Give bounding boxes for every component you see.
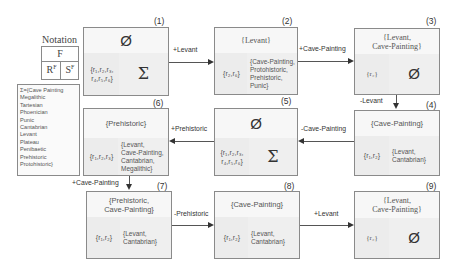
legend-line: Levant [20, 131, 77, 138]
sigma-legend: Σ={Cave Painting Megalithic Tartesian Ph… [17, 84, 80, 176]
legend-line: Plateau [20, 139, 77, 146]
items-label: {Levant, Cantabrian} [251, 230, 285, 246]
box-header: Ø [215, 109, 297, 139]
box-number: (7) [157, 181, 167, 191]
box-number: (6) [153, 98, 163, 108]
box-items: {Levant, Cantabrian} [120, 217, 171, 258]
rows-label: {r₁,r₂,r₃, r₄,r₅,r₆} [220, 148, 243, 166]
arrow-left-icon [169, 138, 175, 144]
transition-label: +Prehistoric [171, 125, 207, 132]
items-label: {Levant, Cave-Painting, Cantabrian, Mega… [121, 141, 164, 173]
arrow-line [300, 225, 349, 226]
box-header: {Cave-Painting} [355, 111, 439, 137]
notation-grid: F RF SF [41, 46, 79, 80]
box-rows: {r₂} [355, 218, 390, 258]
state-box-2: {Levant} {r₂,r₆} {Cave-Painting, Protohi… [214, 27, 298, 95]
box-header: {Levant, Cave-Painting} [355, 29, 439, 55]
box-rows: {r₁,r₂,r₃, r₄,r₅,r₆} [84, 53, 121, 95]
box-items: Σ [119, 53, 168, 95]
transition-label: +Levant [173, 46, 197, 53]
sigma-icon: Σ [267, 153, 278, 161]
legend-line: Tartesian [20, 102, 77, 109]
state-box-6: {Prehistoric} {r₁,r₂,r₃} {Levant, Cave-P… [83, 108, 169, 176]
items-label: {Levant, Cantabrian} [123, 230, 157, 246]
arrow-right-icon [348, 58, 354, 64]
legend-line: Prehistoric [20, 154, 77, 161]
arrow-line [175, 141, 214, 142]
legend-line: Cantabrian [20, 124, 77, 131]
box-header: {Prehistoric} [84, 109, 168, 139]
box-rows: {r₁,r₂} [215, 217, 250, 258]
box-items: {Levant, Cantabrian} [389, 136, 439, 175]
notation-title: Notation [42, 34, 77, 45]
state-box-9: {Levant, Cave-Painting} {r₂} Ø [354, 191, 440, 259]
box-items: Ø [389, 218, 439, 258]
arrow-right-icon [208, 59, 214, 65]
rows-label: {r₁,r₂,r₃, r₄,r₅,r₆} [90, 65, 113, 83]
legend-line: Punic [20, 117, 77, 124]
box-header: {Prehistoric, Cave-Painting} [87, 192, 171, 218]
rows-label: {r₂,r₆} [223, 69, 240, 78]
rows-label: {r₁,r₂,r₃} [90, 152, 114, 161]
box-number: (5) [281, 96, 291, 106]
box-rows: {r₂,r₆} [215, 53, 249, 94]
box-number: (4) [426, 100, 436, 110]
transition-label: +Cave-Painting [299, 45, 346, 52]
rows-label: {r₁,r₂} [364, 151, 380, 160]
transition-label: -Cave-Painting [301, 125, 346, 132]
state-box-1: Ø {r₁,r₂,r₃, r₄,r₅,r₆} Σ [83, 27, 169, 96]
empty-set-icon: Ø [120, 36, 132, 45]
legend-line: Megalithic [20, 94, 77, 101]
empty-set-icon: Ø [408, 234, 420, 242]
empty-set-icon: Ø [250, 119, 262, 128]
box-items: {Cave-Painting, Protohistoric, Prehistor… [247, 53, 297, 94]
box-rows: {r₁,r₂,r₃, r₄,r₅,r₆} [215, 138, 250, 175]
box-rows: {r₁,r₂,r₃} [84, 138, 120, 175]
legend-line: Σ={Cave Painting [20, 87, 77, 94]
transition-label: +Levant [314, 210, 338, 217]
transition-label: -Levant [360, 97, 383, 104]
arrow-line [172, 225, 209, 226]
empty-set-icon: Ø [408, 70, 420, 78]
notation-rf: RF [43, 64, 60, 75]
box-header: {Levant} [215, 28, 297, 54]
state-box-7: {Prehistoric, Cave-Painting} {r₁,r₂} {Le… [86, 191, 172, 259]
box-header: Ø [84, 28, 168, 54]
rows-label: {r₁,r₂} [224, 233, 240, 242]
sigma-icon: Σ [138, 70, 149, 78]
legend-line: Penibaetic [20, 146, 77, 153]
arrow-down-icon [126, 184, 132, 190]
state-box-3: {Levant, Cave-Painting} {r₂} Ø [354, 28, 440, 95]
arrow-line [304, 141, 354, 142]
box-items: {Levant, Cave-Painting, Cantabrian, Mega… [118, 138, 168, 175]
state-box-8: {Cave-Painting} {r₁,r₂} {Levant, Cantabr… [214, 191, 300, 259]
box-rows: {r₁,r₂} [355, 136, 390, 175]
rows-label: {r₂} [366, 234, 378, 243]
arrow-down-icon [393, 103, 399, 109]
transition-label: -Prehistoric [174, 210, 208, 217]
box-rows: {r₂} [355, 54, 390, 94]
notation-f: F [42, 47, 78, 62]
box-header: {Cave-Painting} [215, 192, 299, 218]
box-number: (1) [154, 16, 164, 26]
box-header: {Levant, Cave-Painting} [355, 192, 439, 219]
arrow-right-icon [348, 222, 354, 228]
legend-line: Phoenician [20, 109, 77, 116]
box-number: (8) [284, 181, 294, 191]
rows-label: {r₂} [366, 70, 378, 79]
box-number: (3) [426, 16, 436, 26]
items-label: {Levant, Cantabrian} [392, 148, 426, 164]
arrow-line [298, 61, 349, 62]
arrow-left-icon [298, 138, 304, 144]
box-number: (2) [282, 16, 292, 26]
transition-label: +Cave-Painting [72, 179, 119, 186]
rows-label: {r₁,r₂} [96, 233, 112, 242]
items-label: {Cave-Painting, Protohistoric, Prehistor… [250, 58, 295, 90]
arrow-right-icon [208, 222, 214, 228]
box-items: {Levant, Cantabrian} [248, 217, 299, 258]
notation-sf: SF [61, 64, 79, 75]
state-box-5: Ø {r₁,r₂,r₃, r₄,r₅,r₆} Σ [214, 108, 298, 176]
box-items: Ø [389, 54, 439, 94]
box-items: Σ [249, 138, 297, 175]
legend-line: Protohistoric} [20, 161, 77, 168]
